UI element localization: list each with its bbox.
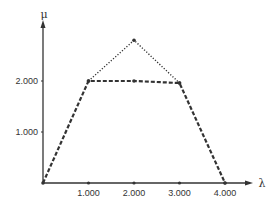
data-point <box>132 38 136 42</box>
x-tick-label: 4.000 <box>214 188 237 198</box>
y-tick-label: 2.000 <box>15 76 38 86</box>
x-axis-arrow-icon <box>245 181 253 186</box>
x-tick-label: 1.000 <box>77 188 100 198</box>
x-tick-mark <box>178 181 181 184</box>
series <box>41 38 227 184</box>
x-tick-label: 2.000 <box>123 188 146 198</box>
data-point <box>178 81 182 85</box>
series-line-dotted <box>89 40 180 83</box>
x-axis-label: λ <box>259 177 266 190</box>
x-tick-mark <box>87 181 90 184</box>
chart: μ λ 1.0002.0003.0004.000 1.0002.000 <box>0 0 277 207</box>
y-ticks: 1.0002.000 <box>15 76 43 137</box>
data-point <box>41 181 45 185</box>
y-axis-arrow-icon <box>41 20 46 28</box>
x-tick-label: 3.000 <box>168 188 191 198</box>
data-point <box>87 79 91 83</box>
y-axis: μ <box>40 8 47 183</box>
y-tick-label: 1.000 <box>15 127 38 137</box>
data-point <box>223 181 227 185</box>
x-tick-mark <box>132 181 135 184</box>
series-line-dashed <box>43 81 225 183</box>
y-axis-label: μ <box>40 8 47 21</box>
x-ticks: 1.0002.0003.0004.000 <box>77 181 236 198</box>
data-point <box>132 79 136 83</box>
